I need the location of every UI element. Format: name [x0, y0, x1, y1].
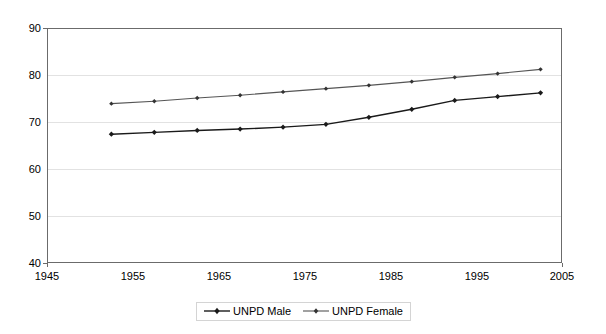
y-axis-label-90: 90 [0, 23, 41, 34]
x-axis-label-2005: 2005 [542, 271, 582, 282]
legend-label-unpd-male: UNPD Male [233, 305, 291, 317]
data-point [452, 98, 457, 103]
x-axis-label-1955: 1955 [113, 271, 153, 282]
x-axis-label-1965: 1965 [199, 271, 239, 282]
data-point [538, 90, 543, 95]
legend-item-unpd-female: UNPD Female [303, 305, 403, 317]
series-line-unpd-male [111, 93, 540, 134]
y-axis-label-60: 60 [0, 164, 41, 175]
legend-marker-female-icon [303, 306, 329, 316]
data-point [109, 132, 114, 137]
data-point [238, 93, 242, 97]
series-markers-unpd-male [109, 90, 543, 137]
legend-label-unpd-female: UNPD Female [332, 305, 403, 317]
data-point [453, 75, 457, 79]
y-axis-label-50: 50 [0, 211, 41, 222]
data-point [109, 101, 113, 105]
y-axis-label-40: 40 [0, 258, 41, 269]
data-point [152, 99, 156, 103]
x-axis-label-1945: 1945 [27, 271, 67, 282]
data-point [366, 115, 371, 120]
legend-marker-male-icon [204, 306, 230, 316]
x-axis-label-1995: 1995 [457, 271, 497, 282]
data-point [495, 94, 500, 99]
series-layer [47, 28, 562, 263]
data-point [367, 83, 371, 87]
y-axis-label-80: 80 [0, 70, 41, 81]
data-point [409, 107, 414, 112]
y-axis-label-70: 70 [0, 117, 41, 128]
data-point [410, 79, 414, 83]
data-point [238, 126, 243, 131]
data-point [195, 96, 199, 100]
data-point [281, 90, 285, 94]
x-tick-mark-2005 [562, 263, 563, 267]
data-point [538, 67, 542, 71]
x-axis-label-1985: 1985 [371, 271, 411, 282]
line-chart: 90 80 70 60 50 40 1945 1955 1965 1975 19… [0, 0, 606, 334]
data-point [280, 125, 285, 130]
data-point [323, 122, 328, 127]
legend-item-unpd-male: UNPD Male [204, 305, 291, 317]
data-point [152, 130, 157, 135]
data-point [324, 86, 328, 90]
chart-legend: UNPD Male UNPD Female [196, 302, 411, 321]
data-point [495, 71, 499, 75]
x-tick-mark-1945 [47, 263, 48, 267]
x-axis-label-1975: 1975 [285, 271, 325, 282]
data-point [195, 128, 200, 133]
